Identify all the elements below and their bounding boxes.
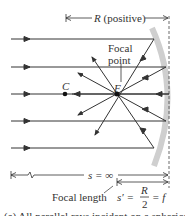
image-distance-lhs: s′ = — [117, 191, 134, 203]
focal-length-label: Focal length — [52, 191, 107, 203]
center-label: C — [62, 80, 69, 92]
radius-label: R (positive) — [94, 12, 146, 24]
radius-note: (positive) — [103, 12, 145, 24]
focal-point-label-1: Focal — [108, 42, 132, 54]
fraction-denominator: 2 — [142, 198, 148, 210]
center-point-dot — [63, 92, 68, 97]
fraction-numerator: R — [141, 184, 148, 196]
image-distance-rhs: = f — [152, 191, 165, 203]
concave-mirror — [152, 28, 168, 166]
figure-caption: (a) All parallel rays incident on a sphe… — [4, 210, 185, 216]
focal-point-label-2: point — [108, 54, 131, 66]
focus-label: F — [114, 82, 121, 94]
mirror-diagram — [0, 0, 185, 216]
radius-symbol: R — [94, 12, 101, 24]
object-distance-label: s = ∞ — [88, 169, 113, 181]
